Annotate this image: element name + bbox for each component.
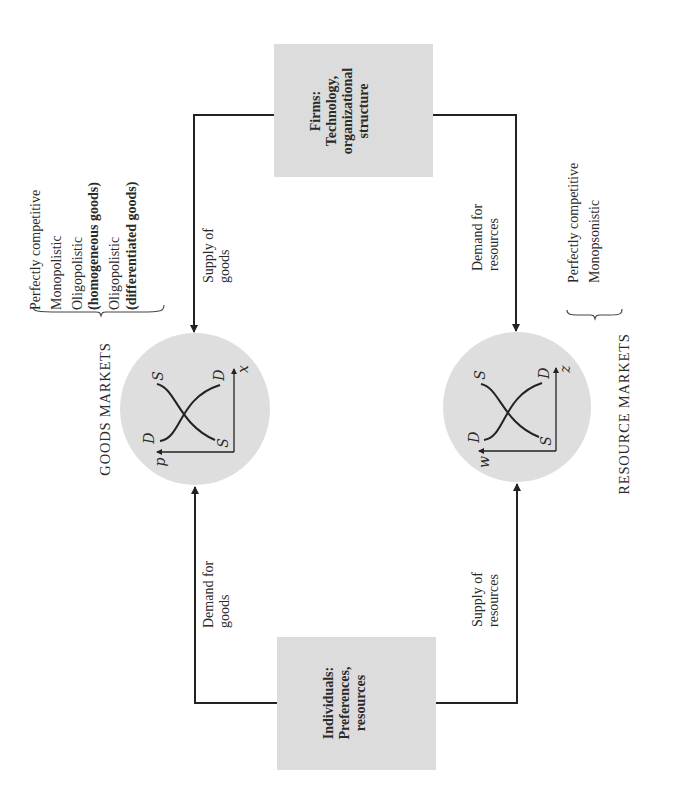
resource-market-types: Perfectly competitive Monopsonistic (566, 153, 616, 283)
goods-type-oligopolistic-homogeneous: Oligopolistic (homogeneous goods) (70, 120, 104, 310)
goods-type-perfectly-competitive: Perfectly competitive (28, 120, 45, 310)
goods-label-supply-bottom: S (215, 436, 229, 450)
supply-of-goods-label: Supply of goods (201, 209, 239, 283)
resource-type-perfectly-competitive: Perfectly competitive (566, 153, 583, 283)
resource-axis-label-w: w (476, 455, 490, 469)
resource-type-monopsonistic: Monopsonistic (587, 153, 604, 283)
goods-axis-label-x: x (235, 363, 249, 375)
demand-for-goods-label: Demand for goods (201, 542, 239, 628)
goods-type-monopolistic: Monopolistic (49, 120, 66, 310)
resource-label-supply-top: S (472, 368, 486, 382)
goods-label-demand-top: D (211, 368, 225, 382)
resource-types-brace (567, 309, 622, 319)
goods-label-supply-top: S (150, 369, 164, 383)
resource-label-demand-bottom: D (466, 430, 480, 444)
resource-label-supply-bottom: S (538, 434, 552, 448)
goods-markets-title: GOODS MARKETS (97, 339, 115, 479)
goods-label-demand-bottom: D (141, 431, 155, 445)
resource-label-demand-top: D (536, 366, 550, 380)
resource-axis-label-z: z (557, 363, 571, 375)
supply-of-resources-label: Supply of resources (470, 541, 508, 627)
goods-axis-label-p: p (152, 456, 166, 468)
goods-type-oligopolistic-differentiated: Oligopolistic (differentiated goods) (107, 120, 141, 310)
demand-for-resources-label: Demand for resources (470, 185, 508, 271)
resource-markets-title: RESOURCE MARKETS (616, 327, 634, 501)
goods-market-types: Perfectly competitive Monopolistic Oligo… (28, 120, 158, 310)
